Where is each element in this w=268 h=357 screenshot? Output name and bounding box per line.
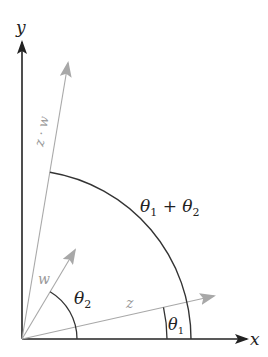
arc-theta1 [164,307,168,339]
vector-zw [22,63,68,339]
theta2-label: θ2 [74,288,91,311]
y-axis-label: y [15,17,26,37]
vector-zw-label: z · w [31,115,51,149]
x-axis-label: x [250,329,260,349]
theta-sum-label: θ1 + θ2 [140,196,200,219]
vector-w-label: w [38,271,50,287]
vector-z-label: z [125,295,134,311]
vector-z [22,296,214,339]
theta1-label: θ1 [168,315,184,336]
complex-multiplication-diagram: x y z w z · w θ2 θ1 θ1 + θ2 [0,0,268,357]
